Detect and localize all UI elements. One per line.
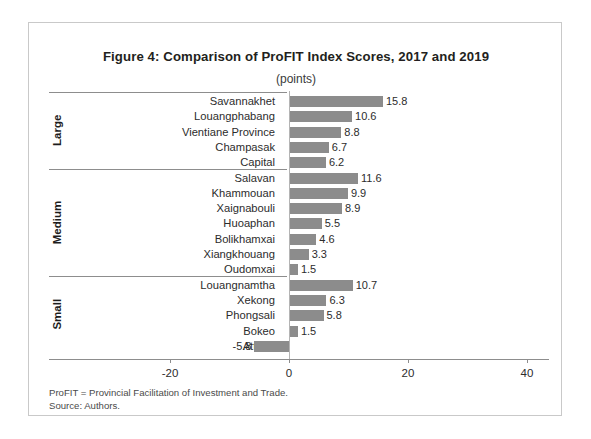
bar <box>289 142 329 153</box>
bars-layer: 15.810.68.86.76.211.69.98.95.54.63.31.51… <box>29 91 563 359</box>
footnote-source: Source: Authors. <box>49 400 288 413</box>
x-axis-tick-label: -20 <box>162 367 179 379</box>
bar <box>289 218 322 229</box>
chart-plot-area: SavannakhetLouangphabangVientiane Provin… <box>29 91 563 359</box>
bar <box>289 127 341 138</box>
bar <box>289 264 298 275</box>
bar-value-label: 1.5 <box>301 326 316 337</box>
bar-value-label: 15.8 <box>386 96 407 107</box>
bar-value-label: 10.6 <box>355 111 376 122</box>
bar <box>289 234 316 245</box>
x-axis-tick-label: 20 <box>402 367 415 379</box>
bar <box>289 173 358 184</box>
bar-value-label: 3.3 <box>312 249 327 260</box>
bar-value-label: 8.8 <box>344 127 359 138</box>
bar <box>289 203 342 214</box>
bar <box>289 326 298 337</box>
x-axis-tick-label: 0 <box>286 367 292 379</box>
bar <box>289 111 352 122</box>
bar-value-label: 8.9 <box>345 203 360 214</box>
bar-value-label: 6.7 <box>332 142 347 153</box>
bar-value-label: 6.2 <box>329 157 344 168</box>
bar-value-label: -5.8 <box>233 341 252 352</box>
bar-value-label: 1.5 <box>301 264 316 275</box>
bar <box>289 249 309 260</box>
bar-value-label: 10.7 <box>356 280 377 291</box>
bar <box>289 188 348 199</box>
figure-subtitle: (points) <box>29 72 563 86</box>
x-axis-tick-mark <box>170 359 171 363</box>
bar <box>289 295 326 306</box>
x-axis-line <box>49 359 549 360</box>
zero-axis-line <box>289 91 290 359</box>
footnotes: ProFIT = Provincial Facilitation of Inve… <box>49 387 288 412</box>
bar <box>289 157 326 168</box>
bar <box>289 310 324 321</box>
bar-value-label: 11.6 <box>361 173 382 184</box>
x-axis-tick-mark <box>289 359 290 363</box>
bar-value-label: 5.5 <box>325 218 340 229</box>
bar-value-label: 6.3 <box>329 295 344 306</box>
x-axis-tick-mark <box>408 359 409 363</box>
bar <box>289 96 383 107</box>
x-axis-tick-label: 40 <box>521 367 534 379</box>
bar-value-label: 5.8 <box>327 310 342 321</box>
figure-title: Figure 4: Comparison of ProFIT Index Sco… <box>29 49 563 64</box>
bar-value-label: 4.6 <box>319 234 334 245</box>
bar <box>289 280 353 291</box>
bar <box>254 341 289 352</box>
bar-value-label: 9.9 <box>351 188 366 199</box>
footnote-definition: ProFIT = Provincial Facilitation of Inve… <box>49 387 288 400</box>
figure-container: Figure 4: Comparison of ProFIT Index Sco… <box>28 22 562 416</box>
x-axis-tick-mark <box>527 359 528 363</box>
